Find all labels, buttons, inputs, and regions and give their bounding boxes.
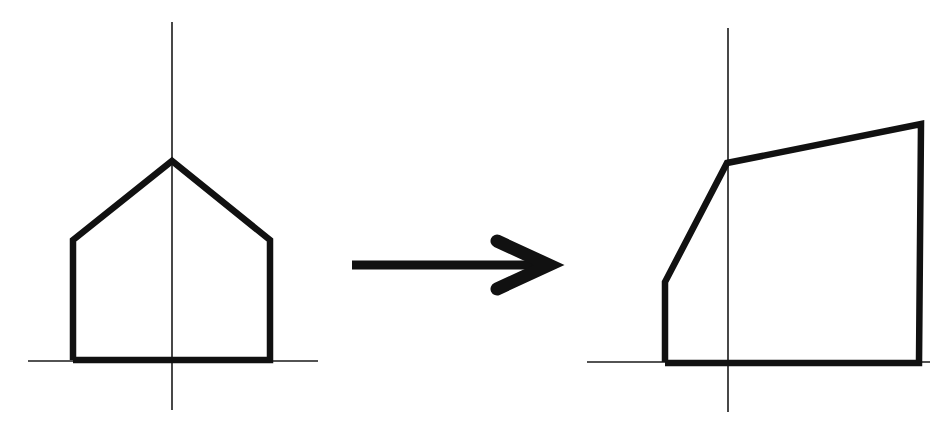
transformation-arrow-group bbox=[352, 241, 549, 289]
source-shape-panel bbox=[28, 22, 318, 410]
target-shape-panel bbox=[587, 28, 930, 412]
transformation-diagram bbox=[0, 0, 952, 433]
diagram-canvas bbox=[0, 0, 952, 433]
target-sheared-pentagon-outline bbox=[665, 124, 921, 363]
